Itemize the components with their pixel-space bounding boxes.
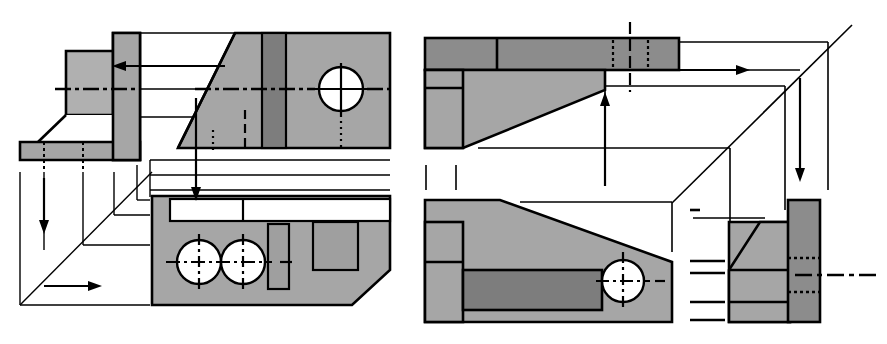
top-view-left-foot — [425, 70, 463, 148]
top-view-wide-pocket — [313, 222, 358, 270]
side-view-upper-arm — [66, 51, 113, 115]
side-view-wall-overlay — [113, 33, 140, 160]
technical-drawing-canvas — [0, 0, 887, 344]
drawing-svg — [0, 0, 887, 344]
left-top-view — [152, 196, 390, 305]
front-view-dark-recess — [463, 270, 602, 310]
front-view-left-foot — [425, 222, 463, 322]
front-view-dark-slot-band — [262, 33, 286, 148]
top-view-dark-band — [425, 38, 679, 70]
side-view-dark-band — [788, 200, 820, 322]
top-view-narrow-slot — [268, 224, 289, 289]
top-view-rib-channel — [170, 199, 390, 221]
